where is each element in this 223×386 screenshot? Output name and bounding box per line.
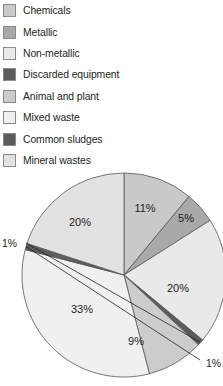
legend-item-label: Non-metallic (23, 48, 80, 59)
legend-swatch-icon (3, 4, 16, 17)
callout-label-discarded-equipment: 1% (206, 358, 221, 369)
legend-item-label: Discarded equipment (23, 69, 119, 80)
legend-item-label: Common sludges (23, 134, 102, 145)
slice-label-mixed-waste: 33% (71, 303, 93, 315)
pie-chart: 11% 5% 20% 9% 33% 20% 1% 1% (0, 170, 223, 386)
callout-label-common-sludges: 1% (2, 238, 17, 249)
slice-label-mineral-wastes: 20% (69, 216, 91, 228)
legend-swatch-icon (3, 26, 16, 39)
legend-item-mixed-waste[interactable]: Mixed waste (0, 107, 223, 128)
legend-item-label: Chemicals (23, 5, 71, 16)
slice-label-metallic: 5% (178, 212, 194, 224)
pie-slices (22, 173, 223, 377)
legend-item-chemicals[interactable]: Chemicals (0, 0, 223, 21)
legend-item-non-metallic[interactable]: Non-metallic (0, 43, 223, 64)
legend-item-discarded-equipment[interactable]: Discarded equipment (0, 64, 223, 85)
legend-item-common-sludges[interactable]: Common sludges (0, 128, 223, 149)
legend-item-label: Mineral wastes (23, 155, 91, 166)
legend-swatch-icon (3, 90, 16, 103)
legend-item-mineral-wastes[interactable]: Mineral wastes (0, 150, 223, 171)
slice-label-animal-and-plant: 9% (128, 335, 144, 347)
legend-swatch-icon (3, 154, 16, 167)
slice-label-non-metallic: 20% (167, 282, 189, 294)
legend-item-label: Mixed waste (23, 112, 80, 123)
slice-label-chemicals: 11% (134, 202, 155, 214)
legend-swatch-icon (3, 68, 16, 81)
legend: Chemicals Metallic Non-metallic Discarde… (0, 0, 223, 171)
legend-swatch-icon (3, 47, 16, 60)
legend-item-label: Metallic (23, 27, 57, 38)
legend-swatch-icon (3, 111, 16, 124)
legend-item-metallic[interactable]: Metallic (0, 21, 223, 42)
pie-chart-svg: 11% 5% 20% 9% 33% 20% 1% 1% (0, 170, 223, 386)
legend-item-label: Animal and plant (23, 91, 99, 102)
legend-swatch-icon (3, 133, 16, 146)
legend-item-animal-and-plant[interactable]: Animal and plant (0, 86, 223, 107)
